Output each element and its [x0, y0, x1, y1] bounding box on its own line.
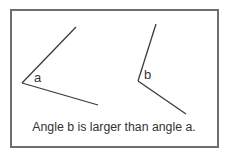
angle-a [22, 27, 98, 105]
angle-b-arm-lower [138, 81, 186, 114]
angle-b-label: b [144, 68, 151, 81]
angle-a-arm-lower [22, 83, 98, 105]
caption: Angle b is larger than angle a. [0, 121, 228, 133]
angle-a-arm-upper [22, 27, 76, 83]
angle-a-label: a [34, 71, 41, 84]
